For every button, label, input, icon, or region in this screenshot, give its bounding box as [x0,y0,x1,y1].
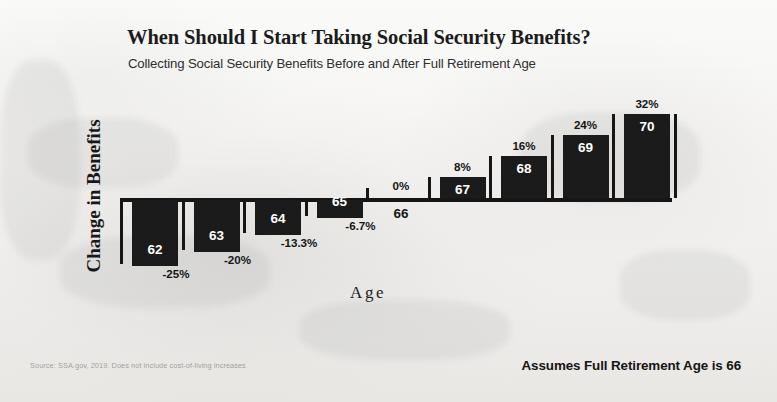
bar-value-label-68: 16% [488,139,560,152]
bar-age-63[interactable] [194,200,240,252]
bar-age-label-66: 66 [378,206,424,221]
bar-value-label-70: 32% [611,97,683,110]
bar-value-label-69: 24% [550,118,622,131]
bar-age-label-69: 69 [563,140,609,155]
bar-value-label-63: -20% [202,253,274,266]
y-axis-label: Change in Benefits [83,96,105,296]
axis-divider-tick [612,114,615,198]
social-security-benefits-chart: When Should I Start Taking Social Securi… [0,0,777,402]
bar-age-label-67: 67 [440,182,486,197]
bar-value-label-62: -25% [140,267,212,280]
axis-divider-tick [674,114,677,198]
assumption-note: Assumes Full Retirement Age is 66 [522,358,741,373]
bar-age-label-62: 62 [132,242,178,257]
axis-divider-tick [182,198,185,250]
bar-age-label-65: 65 [317,194,363,209]
bar-age-label-70: 70 [624,119,670,134]
axis-divider-tick [305,198,308,216]
axis-divider-tick [551,135,554,198]
bar-value-label-67: 8% [427,160,499,173]
chart-title: When Should I Start Taking Social Securi… [127,26,591,49]
source-note: Source: SSA.gov, 2019. Does not include … [30,361,246,370]
scanned-page: When Should I Start Taking Social Securi… [0,0,777,402]
bar-value-label-64: -13.3% [263,236,335,249]
bar-age-label-64: 64 [255,211,301,226]
axis-left-rule [120,198,123,264]
axis-divider-tick [243,198,246,233]
bar-value-label-66: 0% [365,179,437,192]
axis-divider-tick [489,156,492,198]
axis-divider-tick [428,177,431,198]
bar-age-label-68: 68 [501,161,547,176]
bar-age-label-63: 63 [194,228,240,243]
plot-area: 62-25%63-20%64-13.3%65-6.7%660%678%6816%… [120,96,676,291]
chart-subtitle: Collecting Social Security Benefits Befo… [128,56,536,71]
